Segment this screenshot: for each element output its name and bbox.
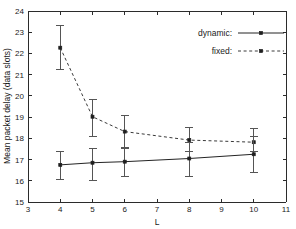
legend-label-dynamic: dynamic: (198, 28, 232, 38)
legend-label-fixed: fixed: (212, 46, 232, 56)
chart-canvas: 3 4 5 6 7 8 9 10 11 15 16 17 18 19 20 21… (0, 0, 296, 229)
y-tick-labels: 15 16 17 18 19 20 21 22 23 24 (15, 7, 24, 207)
figure-container: 3 4 5 6 7 8 9 10 11 15 16 17 18 19 20 21… (0, 0, 296, 229)
x-tick-label: 5 (90, 205, 95, 214)
y-tick-label: 20 (15, 92, 24, 101)
x-tick-label: 9 (219, 205, 224, 214)
x-tick-label: 3 (26, 205, 31, 214)
x-tick-labels: 3 4 5 6 7 8 9 10 11 (26, 205, 291, 214)
y-tick-label: 21 (15, 71, 24, 80)
x-tick-label: 8 (187, 205, 192, 214)
y-tick-label: 24 (15, 7, 24, 16)
x-axis-title: L (155, 217, 160, 227)
y-tick-label: 19 (15, 113, 24, 122)
legend-marker-fixed (260, 50, 263, 53)
y-axis-title: Mean packet delay (data slots) (2, 48, 12, 164)
x-tick-label: 7 (155, 205, 160, 214)
y-tick-label: 17 (15, 156, 24, 165)
x-tick-label: 6 (123, 205, 128, 214)
y-tick-label: 16 (15, 177, 24, 186)
y-tick-label: 23 (15, 28, 24, 37)
legend-marker-dynamic (260, 32, 263, 35)
y-tick-label: 15 (15, 198, 24, 207)
legend[interactable]: dynamic: fixed: (162, 24, 286, 60)
x-tick-label: 4 (58, 205, 63, 214)
x-tick-label: 11 (282, 205, 291, 214)
x-tick-label: 10 (249, 205, 258, 214)
y-tick-label: 22 (15, 49, 24, 58)
y-tick-label: 18 (15, 134, 24, 143)
